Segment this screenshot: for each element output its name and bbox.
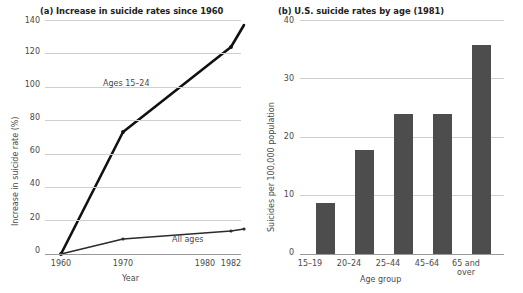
- panel-a-title: (a) Increase in suicide rates since 1960: [40, 6, 223, 16]
- panel-b-y-axis-label: Suicides per 100,000 population: [268, 102, 276, 232]
- panel-a-ytick-120: 120: [10, 48, 40, 56]
- gridline-140: [45, 20, 241, 21]
- panel-b-xtick-20-24: 20–24: [330, 259, 368, 268]
- gridline-40: [45, 187, 241, 188]
- panel-b-title: (b) U.S. suicide rates by age (1981): [278, 6, 444, 16]
- panel-a-xtick-1982: 1982: [218, 259, 244, 268]
- gridline-20: [45, 220, 241, 221]
- panel-b-plot-area: [300, 20, 504, 254]
- panel-b-xtick-25-44: 25–44: [369, 259, 407, 268]
- panel-b-ytick-30: 30: [266, 75, 294, 83]
- bar-15-19: [316, 203, 335, 254]
- gridline-60: [45, 154, 241, 155]
- figure-container: (a) Increase in suicide rates since 1960…: [0, 0, 523, 293]
- gridline-120: [45, 53, 241, 54]
- panel-a-xtick-1970: 1970: [103, 259, 143, 268]
- panel-a-series-label-ages-15-24: Ages 15–24: [103, 80, 150, 88]
- panel-b-x-axis-label: Age group: [360, 276, 401, 284]
- panel-b-ytick-10: 10: [266, 191, 294, 199]
- panel-a-ytick-0: 0: [10, 247, 40, 255]
- gridline-80: [45, 120, 241, 121]
- gridline-40: [300, 20, 504, 21]
- panel-a-ytick-140: 140: [10, 17, 40, 25]
- panel-a-xtick-1960: 1960: [41, 259, 81, 268]
- panel-a-ytick-100: 100: [10, 81, 40, 89]
- marker-ages-1980: [229, 45, 233, 49]
- marker-all-1980: [229, 229, 232, 232]
- panel-b-ytick-0: 0: [266, 249, 294, 257]
- marker-all-1982: [242, 227, 245, 230]
- panel-a-ytick-20: 20: [10, 214, 40, 222]
- panel-b-x-axis: [300, 254, 504, 255]
- panel-a-y-axis-label: Increase in suicide rate (%): [12, 117, 20, 227]
- panel-a-x-axis: [45, 254, 241, 255]
- panel-b-bar-chart: (b) U.S. suicide rates by age (1981) Sui…: [258, 0, 523, 293]
- panel-b-xtick-45-64: 45–64: [408, 259, 446, 268]
- panel-b-ytick-20: 20: [266, 133, 294, 141]
- panel-a-xtick-1980: 1980: [192, 259, 218, 268]
- panel-a-plot-area: Ages 15–24 All ages: [45, 20, 241, 254]
- bar-65-and-over: [472, 45, 491, 254]
- panel-b-ytick-40: 40: [266, 17, 294, 25]
- series-all-ages-line: [61, 229, 244, 254]
- panel-a-ytick-60: 60: [10, 147, 40, 155]
- marker-all-1970: [121, 237, 124, 240]
- panel-a-ytick-80: 80: [10, 114, 40, 122]
- marker-ages-1970: [121, 130, 125, 134]
- bar-20-24: [355, 150, 374, 254]
- panel-b-xtick-65-and-over: 65 and over: [447, 259, 485, 277]
- panel-a-x-axis-label: Year: [122, 275, 139, 283]
- bar-45-64: [433, 114, 452, 254]
- panel-a-ytick-40: 40: [10, 180, 40, 188]
- bar-25-44: [394, 114, 413, 254]
- panel-b-xtick-15-19: 15–19: [291, 259, 329, 268]
- panel-a-line-chart: (a) Increase in suicide rates since 1960…: [0, 0, 258, 293]
- panel-a-series-label-all-ages: All ages: [172, 236, 204, 244]
